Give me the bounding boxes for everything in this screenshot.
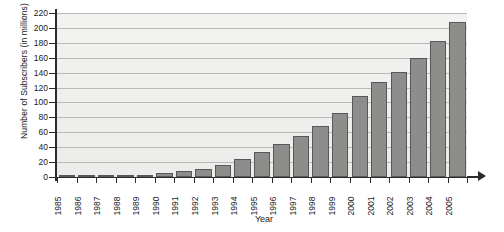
bar bbox=[449, 22, 465, 177]
bar-slot bbox=[330, 13, 350, 177]
x-axis-tick-mark bbox=[409, 177, 429, 183]
bar-slot bbox=[174, 13, 194, 177]
bar bbox=[234, 159, 250, 177]
x-axis-tick-mark bbox=[57, 177, 77, 183]
bar bbox=[332, 113, 348, 177]
x-axis-tick-mark bbox=[155, 177, 175, 183]
x-axis-tick-mark bbox=[213, 177, 233, 183]
bar bbox=[293, 136, 309, 177]
y-axis-tick-mark bbox=[49, 162, 56, 163]
x-axis-tick-mark bbox=[194, 177, 214, 183]
x-axis-tick-mark bbox=[330, 177, 350, 183]
y-axis-tick-label: 120 bbox=[34, 84, 48, 92]
y-axis-tick-mark bbox=[49, 177, 56, 178]
bar-slot bbox=[370, 13, 390, 177]
x-axis-tick-labels: 1985198619871988198919901991199219931994… bbox=[57, 184, 467, 218]
bar-slot bbox=[77, 13, 97, 177]
bar-chart: Number of Subscribers (in millions) 0204… bbox=[0, 0, 504, 232]
y-axis-tick-mark bbox=[49, 58, 56, 59]
bar bbox=[391, 72, 407, 177]
x-axis-tick-mark bbox=[370, 177, 390, 183]
y-axis-tick-mark bbox=[49, 117, 56, 118]
bar bbox=[273, 144, 289, 177]
x-axis-tick-mark bbox=[96, 177, 116, 183]
y-axis-tick-mark bbox=[49, 88, 56, 89]
y-axis-tick-mark bbox=[49, 13, 56, 14]
bar bbox=[410, 58, 426, 177]
bar-slot bbox=[194, 13, 214, 177]
bar-slot bbox=[213, 13, 233, 177]
y-axis-tick-mark bbox=[49, 73, 56, 74]
x-axis-arrow-icon bbox=[478, 171, 486, 181]
x-axis-ticks bbox=[57, 177, 467, 183]
y-axis-tick-label: 140 bbox=[34, 69, 48, 77]
bar-slot bbox=[350, 13, 370, 177]
bar bbox=[352, 96, 368, 177]
y-axis-tick-label: 220 bbox=[34, 9, 48, 17]
bar bbox=[430, 41, 446, 177]
x-axis-tick-mark bbox=[428, 177, 448, 183]
y-axis-tick-label: 180 bbox=[34, 39, 48, 47]
bar-slot bbox=[233, 13, 253, 177]
x-axis-tick-mark bbox=[311, 177, 331, 183]
y-axis-tick-mark bbox=[49, 147, 56, 148]
bar-slot bbox=[96, 13, 116, 177]
x-axis-tick-mark bbox=[116, 177, 136, 183]
y-axis-tick-label: 100 bbox=[34, 98, 48, 106]
y-axis-tick-label: 60 bbox=[39, 128, 48, 136]
x-axis-tick-label-slot: 2005 bbox=[448, 184, 468, 218]
y-axis-tick-label: 200 bbox=[34, 24, 48, 32]
x-axis-tick-mark bbox=[252, 177, 272, 183]
y-axis-tick-label: 40 bbox=[39, 143, 48, 151]
bar-slot bbox=[272, 13, 292, 177]
bar-slot bbox=[428, 13, 448, 177]
bar-slot bbox=[155, 13, 175, 177]
bar-slot bbox=[448, 13, 468, 177]
x-axis-title-text: Year bbox=[255, 214, 273, 224]
x-axis-tick-mark bbox=[233, 177, 253, 183]
bar bbox=[254, 152, 270, 177]
bar-slot bbox=[311, 13, 331, 177]
x-axis-tick-mark bbox=[272, 177, 292, 183]
bar-slot bbox=[252, 13, 272, 177]
y-axis-tick-mark bbox=[49, 132, 56, 133]
y-axis-tick-label: 80 bbox=[39, 113, 48, 121]
x-axis-title: Year bbox=[0, 214, 504, 224]
bar-slot bbox=[389, 13, 409, 177]
bar-slot bbox=[291, 13, 311, 177]
x-axis-tick-mark bbox=[77, 177, 97, 183]
bar-series bbox=[57, 13, 467, 177]
y-axis-tick-label: 0 bbox=[43, 173, 48, 181]
bar-slot bbox=[116, 13, 136, 177]
x-axis-tick-mark bbox=[291, 177, 311, 183]
y-axis-tick-mark bbox=[49, 43, 56, 44]
bar bbox=[371, 82, 387, 177]
y-axis-tick-label: 20 bbox=[39, 158, 48, 166]
bar bbox=[195, 169, 211, 177]
y-axis-tick-label: 160 bbox=[34, 54, 48, 62]
y-axis-tick-mark bbox=[49, 28, 56, 29]
bar-slot bbox=[409, 13, 429, 177]
bar-slot bbox=[135, 13, 155, 177]
y-axis-tick-mark bbox=[49, 102, 56, 103]
bar bbox=[215, 165, 231, 177]
x-axis-tick-mark bbox=[135, 177, 155, 183]
x-axis-tick-label: 2005 bbox=[445, 197, 469, 216]
x-axis-tick-mark bbox=[448, 177, 468, 183]
x-axis-tick-mark bbox=[174, 177, 194, 183]
x-axis-tick-mark bbox=[389, 177, 409, 183]
x-axis-tick-mark bbox=[350, 177, 370, 183]
bar-slot bbox=[57, 13, 77, 177]
bar bbox=[312, 126, 328, 177]
y-axis-tick-labels: 020406080100120140160180200220 bbox=[22, 9, 48, 181]
